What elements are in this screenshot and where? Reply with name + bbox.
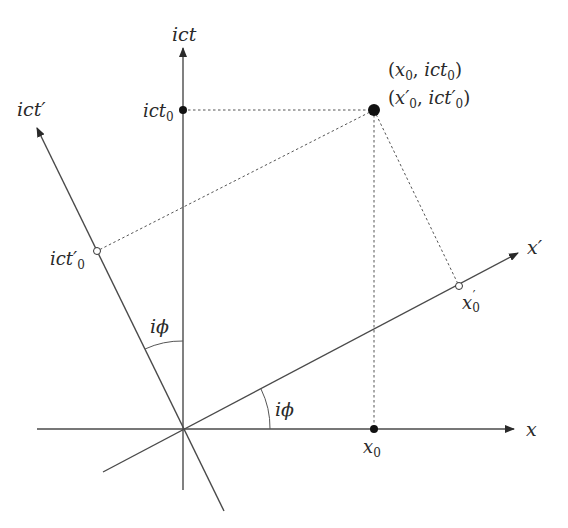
x0-label: x0 bbox=[363, 436, 381, 460]
x0-prime-point bbox=[456, 283, 463, 290]
ict-axis-label: ict bbox=[172, 23, 197, 45]
x0-prime-label: x0′ bbox=[462, 289, 480, 315]
ict-prime-axis bbox=[37, 128, 224, 511]
angle-arc-x bbox=[261, 389, 270, 429]
ict0-point bbox=[179, 106, 187, 114]
angle-label-x: iϕ bbox=[275, 398, 294, 420]
projection-to-x0-prime bbox=[374, 110, 459, 286]
x-axis-label: x bbox=[526, 418, 537, 440]
event-point bbox=[368, 104, 380, 116]
spacetime-rotation-diagram: ict ict′ x x′ (x0, ict0) (x′0, ict′0) ic… bbox=[0, 0, 568, 528]
ict-prime-axis-label: ict′ bbox=[17, 98, 46, 120]
event-coords-unprimed: (x0, ict0) bbox=[388, 59, 462, 83]
angle-arc-ict bbox=[145, 341, 183, 349]
angle-label-ict: iϕ bbox=[150, 315, 169, 337]
projection-to-ict0-prime bbox=[97, 110, 374, 251]
x0-point bbox=[370, 425, 378, 433]
event-coords-primed: (x′0, ict′0) bbox=[388, 87, 470, 111]
ict0-prime-point bbox=[94, 248, 101, 255]
ict0-label: ict0 bbox=[143, 100, 174, 124]
ict0-prime-label: ict′0 bbox=[50, 248, 85, 272]
x-prime-axis-label: x′ bbox=[527, 236, 543, 258]
